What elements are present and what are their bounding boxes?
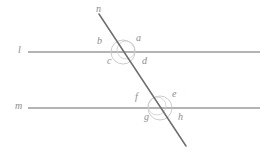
angle-label-a: a bbox=[136, 33, 141, 43]
line-n-transversal bbox=[99, 14, 186, 146]
geometry-diagram: l m n b a c d f e g h bbox=[0, 0, 266, 153]
line-label-n: n bbox=[96, 4, 101, 14]
angle-label-d: d bbox=[142, 56, 147, 66]
line-label-m: m bbox=[15, 101, 22, 111]
angle-label-e: e bbox=[172, 89, 176, 99]
angle-label-f: f bbox=[135, 92, 138, 102]
geometry-canvas bbox=[0, 0, 266, 153]
line-label-l: l bbox=[18, 45, 21, 55]
angle-label-g: g bbox=[144, 112, 149, 122]
angle-label-h: h bbox=[178, 112, 183, 122]
angle-label-c: c bbox=[107, 56, 111, 66]
angle-label-b: b bbox=[97, 36, 102, 46]
